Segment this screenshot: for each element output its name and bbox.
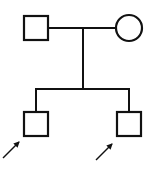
- pedigree-svg: [0, 0, 162, 176]
- proband-arrow-icon: [96, 144, 112, 160]
- child-2-square: [117, 112, 141, 136]
- mother-circle: [116, 15, 142, 41]
- child-1-square: [24, 112, 48, 136]
- pedigree-diagram: [0, 0, 162, 176]
- proband-arrow-icon: [3, 142, 19, 158]
- father-square: [24, 16, 48, 40]
